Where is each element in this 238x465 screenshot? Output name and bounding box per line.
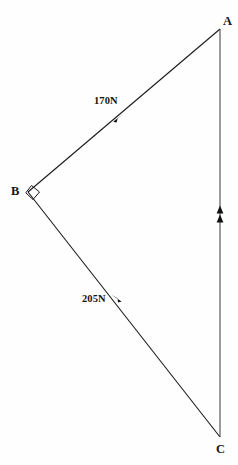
force-label-ba: 170N [94, 96, 118, 107]
diagram-canvas [0, 0, 238, 465]
vertex-label-b: B [11, 185, 19, 198]
vertex-label-a: A [223, 15, 232, 28]
edge-ca-arrowhead-icon-2 [217, 215, 224, 223]
vertex-label-c: C [216, 443, 225, 456]
force-triangle-diagram: A B C 170N 205N [0, 0, 238, 465]
edge-cb-line [28, 192, 220, 437]
force-label-cb: 205N [82, 294, 106, 305]
edge-ba-line [28, 29, 220, 192]
edge-ca-arrowhead-icon-1 [217, 206, 224, 214]
edge-cb-arrowhead-icon [111, 295, 122, 303]
